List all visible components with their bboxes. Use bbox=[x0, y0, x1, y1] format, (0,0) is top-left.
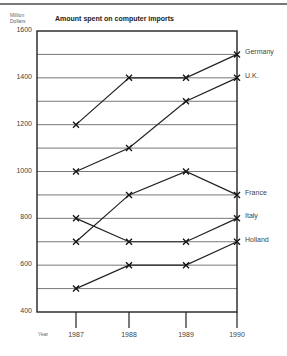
x-tick-label: 1990 bbox=[222, 331, 252, 338]
plot-area bbox=[0, 0, 287, 356]
x-axis-label: Year bbox=[38, 331, 48, 337]
y-tick-label: 600 bbox=[2, 260, 32, 267]
x-tick-label: 1989 bbox=[171, 331, 201, 338]
y-tick-label: 400 bbox=[2, 307, 32, 314]
y-tick-label: 1000 bbox=[2, 167, 32, 174]
series-line bbox=[76, 172, 237, 242]
y-tick-label: 1600 bbox=[2, 26, 32, 33]
y-tick-label: 1200 bbox=[2, 120, 32, 127]
legend-label: U.K. bbox=[245, 72, 259, 79]
x-tick-label: 1987 bbox=[61, 331, 91, 338]
legend-label: Italy bbox=[245, 212, 258, 219]
legend-label: France bbox=[245, 189, 267, 196]
legend-label: Germany bbox=[245, 48, 274, 55]
y-tick-label: 800 bbox=[2, 213, 32, 220]
y-tick-label: 1400 bbox=[2, 73, 32, 80]
x-tick-label: 1988 bbox=[114, 331, 144, 338]
legend-label: Holland bbox=[245, 236, 269, 243]
series-line bbox=[76, 218, 237, 241]
